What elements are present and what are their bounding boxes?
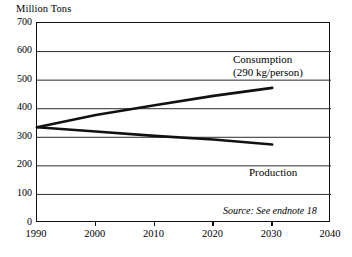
x-tick-label: 2020 xyxy=(192,228,232,240)
x-tick-mark xyxy=(154,222,155,226)
x-tick-mark xyxy=(271,222,272,226)
x-tick-mark xyxy=(95,222,96,226)
x-tick-label: 2000 xyxy=(75,228,115,240)
x-tick-label: 2040 xyxy=(310,228,350,240)
x-tick-label: 1990 xyxy=(16,228,56,240)
x-tick-label: 2030 xyxy=(251,228,291,240)
x-tick-mark xyxy=(212,222,213,226)
x-axis-tick-labels: 199020002010202020302040 xyxy=(0,0,352,257)
x-tick-label: 2010 xyxy=(134,228,174,240)
chart-figure: Million Tons Consumption (290 kg/person)… xyxy=(0,0,352,257)
